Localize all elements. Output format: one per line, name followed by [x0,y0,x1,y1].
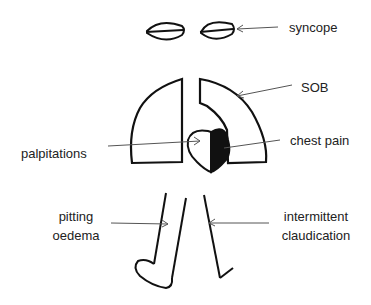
syncope-arrow [237,25,278,32]
legs-icon [135,193,233,288]
syncope-label: syncope [289,20,337,36]
chest-pain-label: chest pain [290,133,349,149]
pitting-oedema-line1: pitting [44,209,108,225]
palpitations-arrow [108,137,200,146]
chest-pain-arrow [224,140,280,148]
eyes-icon [146,22,234,39]
heart-icon [188,129,230,172]
claudication-arrow [209,219,269,226]
claudication-line1: intermittent [278,209,354,225]
palpitations-label: palpitations [21,146,87,162]
sob-arrow [237,85,292,98]
pitting-oedema-label: pitting oedema [44,209,108,244]
sob-label: SOB [301,80,328,96]
claudication-label: intermittent claudication [278,209,354,244]
claudication-line2: claudication [278,228,354,244]
pitting-oedema-line2: oedema [44,228,108,244]
